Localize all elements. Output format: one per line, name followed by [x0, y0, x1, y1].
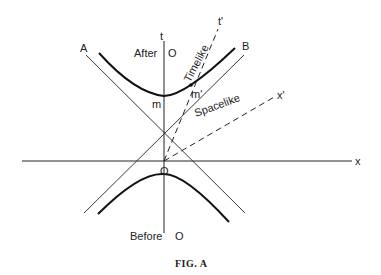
spacetime-diagram: t x t' x' A B After O m m' O Timelike Sp… — [0, 0, 381, 275]
origin-label: O — [160, 165, 169, 177]
timelike-label: Timelike — [181, 43, 211, 84]
light-line-b-label: B — [242, 40, 249, 52]
t-axis-label: t — [160, 30, 163, 42]
light-line-a-label: A — [80, 42, 88, 54]
x-axis-label: x — [355, 155, 361, 167]
x-prime-label: x' — [277, 89, 285, 101]
after-label: After — [134, 47, 158, 59]
m-prime-label: m' — [191, 88, 202, 100]
t-prime-label: t' — [218, 15, 223, 27]
before-o-label: O — [175, 230, 184, 242]
before-label: Before — [130, 230, 162, 242]
light-line-a — [86, 55, 245, 213]
figure-caption: FIG. A — [175, 258, 208, 269]
after-o-label: O — [168, 47, 177, 59]
m-label: m — [152, 98, 161, 110]
